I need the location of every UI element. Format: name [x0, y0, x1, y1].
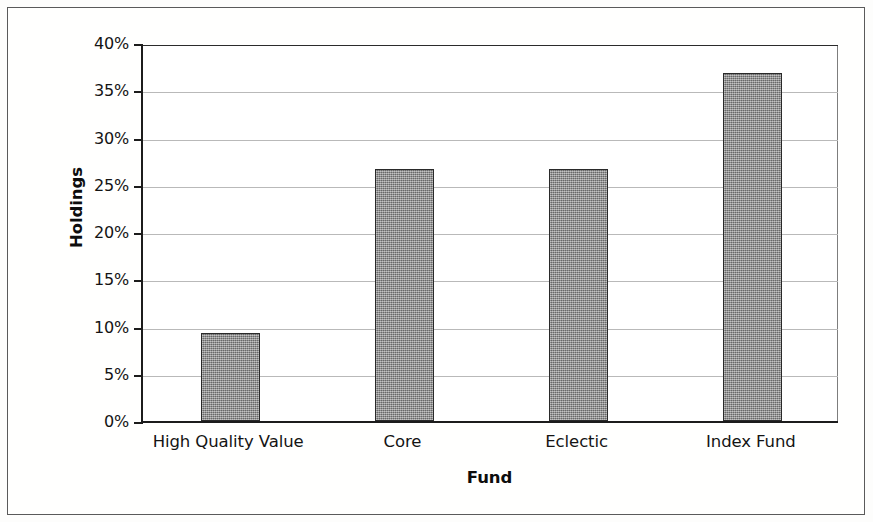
x-axis-tick-label: Core	[315, 432, 489, 451]
y-axis-tick-label: 35%	[59, 81, 129, 100]
y-axis-tick	[134, 233, 143, 235]
y-axis-tick	[134, 375, 143, 377]
y-axis-tick-label: 40%	[59, 34, 129, 53]
y-axis-tick	[134, 422, 143, 424]
bar	[201, 333, 260, 421]
bar	[375, 169, 434, 421]
y-axis-tick-label: 10%	[59, 318, 129, 337]
y-axis-tick-label: 0%	[59, 412, 129, 431]
y-axis-tick	[134, 328, 143, 330]
y-axis-tick-label: 5%	[59, 365, 129, 384]
y-axis-tick-label: 25%	[59, 176, 129, 195]
x-axis-tick-label: Index Fund	[664, 432, 838, 451]
y-axis-title: Holdings	[67, 148, 86, 268]
y-axis-tick-label: 20%	[59, 223, 129, 242]
x-axis-tick-label: Eclectic	[490, 432, 664, 451]
y-axis-tick-label: 30%	[59, 129, 129, 148]
y-axis-tick	[134, 139, 143, 141]
bar	[549, 169, 608, 421]
x-axis-tick-label: High Quality Value	[141, 432, 315, 451]
y-axis-tick	[134, 280, 143, 282]
y-axis-tick	[134, 186, 143, 188]
gridline	[143, 45, 838, 46]
y-axis-tick	[134, 91, 143, 93]
bar	[723, 73, 782, 421]
chart-figure: Holdings 0%5%10%15%20%25%30%35%40% High …	[0, 0, 873, 522]
x-axis-title: Fund	[141, 468, 838, 487]
y-axis-tick-label: 15%	[59, 270, 129, 289]
y-axis-tick	[134, 44, 143, 46]
plot-right-edge	[837, 45, 838, 421]
plot-area	[141, 45, 838, 423]
